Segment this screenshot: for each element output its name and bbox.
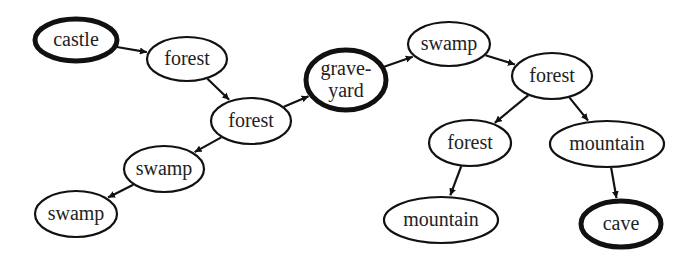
node-label: forest [164, 47, 210, 69]
node-label: mountain [569, 132, 645, 154]
arrow-line [284, 96, 309, 107]
nodes-layer: castleforestforestswampswampgrave-yardsw… [35, 19, 664, 247]
node-label: forest [529, 64, 575, 86]
node-cave: cave [581, 201, 661, 247]
edge-forest3-to-mountain1 [569, 98, 588, 121]
node-label: swamp [421, 32, 478, 55]
node-swamp2: swamp [35, 191, 117, 237]
edge-forest4-to-mountain2 [450, 166, 461, 195]
arrow-line [450, 166, 461, 195]
node-graveyard: grave-yard [306, 50, 386, 110]
arrow-line [485, 55, 514, 64]
node-label: grave- [320, 57, 371, 80]
node-label: forest [447, 131, 493, 153]
node-swamp1: swamp [124, 146, 204, 192]
location-graph: castleforestforestswampswampgrave-yardsw… [0, 0, 697, 269]
edge-swamp1-to-swamp2 [108, 185, 133, 198]
edge-graveyard-to-swamp3 [384, 57, 413, 67]
edge-forest1-to-forest2 [207, 79, 229, 100]
node-label: cave [603, 212, 640, 234]
node-forest4: forest [429, 120, 511, 166]
node-label: swamp [48, 202, 105, 225]
node-label: forest [228, 109, 274, 131]
arrow-line [117, 47, 147, 52]
edge-mountain1-to-cave [611, 168, 616, 198]
arrow-line [495, 95, 528, 122]
arrow-line [207, 79, 229, 100]
node-label: swamp [136, 157, 193, 180]
arrow-line [611, 168, 616, 198]
node-forest3: forest [512, 53, 592, 99]
edge-castle-to-forest1 [117, 47, 147, 52]
node-swamp3: swamp [408, 22, 490, 66]
node-forest1: forest [147, 37, 227, 81]
arrow-line [195, 137, 222, 152]
node-castle: castle [35, 19, 117, 61]
arrow-line [384, 57, 413, 67]
arrow-line [569, 98, 588, 121]
node-forest2: forest [211, 98, 291, 144]
node-label: mountain [403, 208, 479, 230]
node-label: castle [53, 28, 99, 50]
edge-forest3-to-forest4 [495, 95, 528, 122]
edge-swamp3-to-forest3 [485, 55, 514, 64]
arrow-line [108, 185, 133, 198]
edge-forest2-to-graveyard [284, 96, 309, 107]
edge-forest2-to-swamp1 [195, 137, 222, 152]
node-mountain1: mountain [550, 121, 664, 167]
node-mountain2: mountain [384, 197, 498, 243]
node-label: yard [328, 79, 364, 102]
